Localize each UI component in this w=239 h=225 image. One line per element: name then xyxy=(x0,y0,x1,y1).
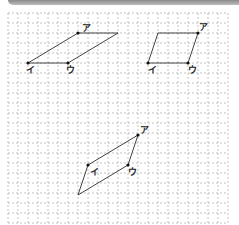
figure-3: アイウ xyxy=(78,125,149,195)
grid-canvas: アイウアイウアイウ xyxy=(0,0,239,225)
figure-1: アイウ xyxy=(26,23,118,75)
vertex-label: ア xyxy=(199,22,208,32)
vertex-label: イ xyxy=(90,167,99,177)
vertex-label: イ xyxy=(148,65,157,75)
vertex-label: ア xyxy=(82,23,91,33)
vertex-label: ウ xyxy=(128,167,137,177)
figure-2: アイウ xyxy=(146,22,208,75)
vertex-label: ア xyxy=(140,125,149,135)
parallelogram-figures: アイウアイウアイウ xyxy=(26,22,208,195)
dotted-grid xyxy=(8,13,228,223)
parallelogram xyxy=(28,33,118,63)
vertex-label: ウ xyxy=(66,65,75,75)
vertex-dot xyxy=(76,31,79,34)
vertex-label: ウ xyxy=(188,65,197,75)
vertex-label: イ xyxy=(26,65,35,75)
parallelogram xyxy=(148,33,198,63)
